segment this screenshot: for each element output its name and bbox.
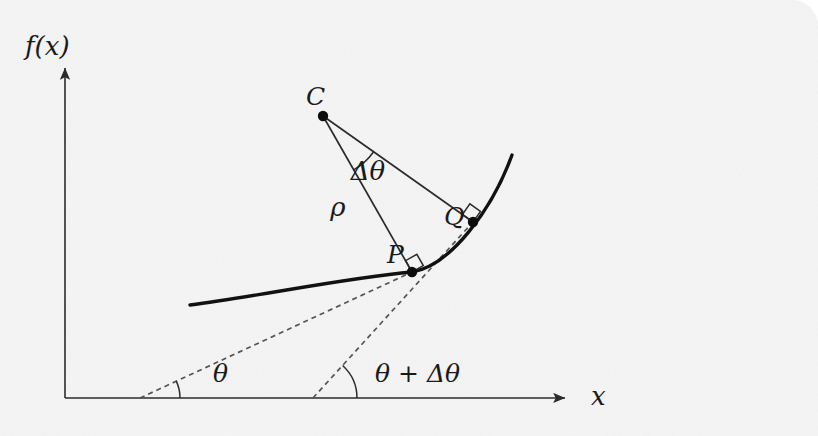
segment-label-delta-theta: Δθ bbox=[350, 156, 386, 186]
y-axis-label: f(x) bbox=[23, 31, 70, 61]
point-label-Q: Q bbox=[444, 202, 465, 231]
point-dot-P bbox=[407, 267, 417, 277]
angle-label-theta: θ bbox=[213, 359, 228, 388]
point-label-P: P bbox=[386, 240, 405, 269]
figure-root: f(x) x C P Q ρ bbox=[0, 0, 818, 436]
geometry-diagram-canvas: f(x) x C P Q ρ bbox=[0, 0, 818, 436]
segment-label-rho: ρ bbox=[329, 192, 346, 222]
point-dot-Q bbox=[468, 217, 478, 227]
angle-label-theta-plus-delta-theta: θ + Δθ bbox=[375, 359, 460, 388]
x-axis-label: x bbox=[591, 381, 606, 411]
point-dot-C bbox=[318, 111, 328, 121]
point-label-C: C bbox=[306, 82, 325, 111]
